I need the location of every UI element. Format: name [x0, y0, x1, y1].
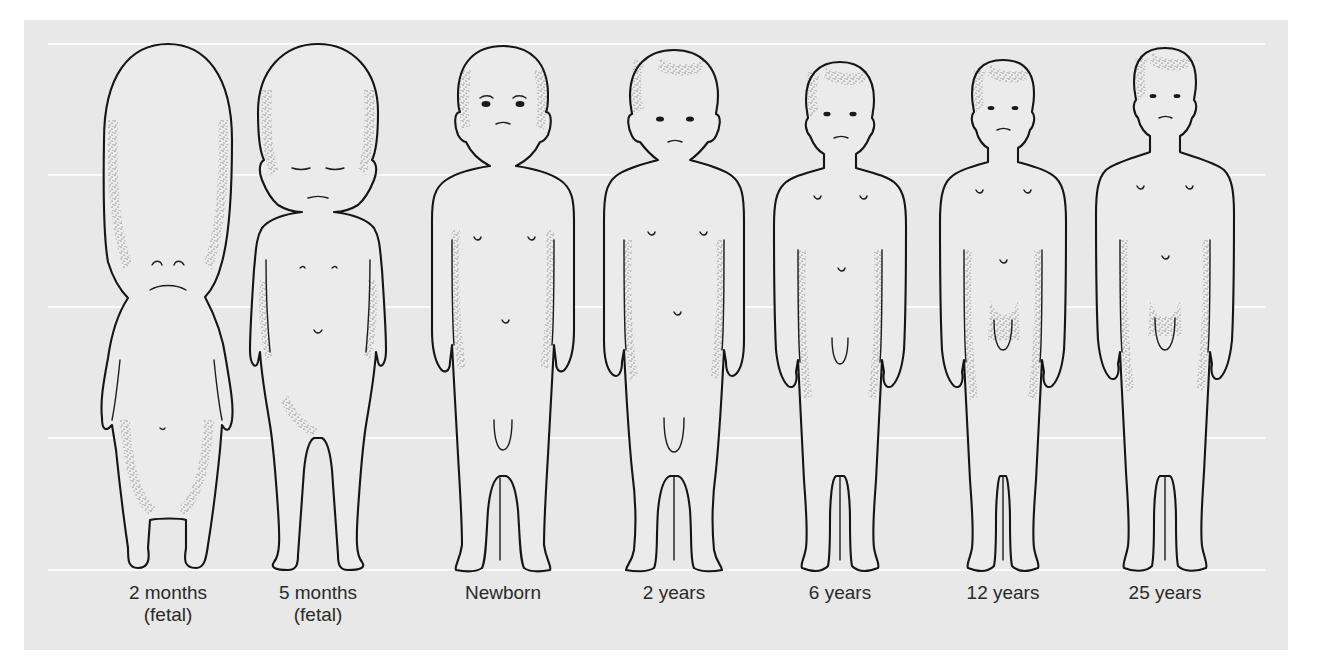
label-2-months-fetal: 2 months (fetal) [129, 582, 207, 626]
figure-newborn [432, 46, 574, 571]
label-line-1: 6 years [809, 582, 871, 604]
label-25-years: 25 years [1129, 582, 1202, 604]
label-line-1: 12 years [967, 582, 1040, 604]
label-2-years: 2 years [643, 582, 705, 604]
label-line-1: 2 months [129, 582, 207, 604]
label-12-years: 12 years [967, 582, 1040, 604]
label-line-2: (fetal) [129, 604, 207, 626]
label-6-years: 6 years [809, 582, 871, 604]
label-line-1: 25 years [1129, 582, 1202, 604]
figure-6-years [774, 62, 906, 571]
label-line-1: 2 years [643, 582, 705, 604]
figure-2-years [604, 50, 744, 571]
figure-5-months-fetal [250, 44, 386, 570]
label-line-2: (fetal) [279, 604, 357, 626]
label-line-1: Newborn [465, 582, 541, 604]
label-5-months-fetal: 5 months (fetal) [279, 582, 357, 626]
label-line-1: 5 months [279, 582, 357, 604]
label-newborn: Newborn [465, 582, 541, 604]
figure-25-years [1096, 48, 1234, 571]
proportions-illustration [0, 0, 1319, 665]
figure-12-years [940, 60, 1066, 571]
